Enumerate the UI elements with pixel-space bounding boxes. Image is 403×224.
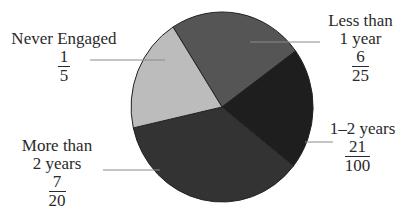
label-text: 1–2 years [322,120,403,138]
pie-slices [131,12,313,202]
fraction: 21 100 [345,138,371,175]
fraction: 1 5 [58,48,71,85]
fraction: 6 25 [352,48,369,85]
label-text-line-1: Less than [318,12,403,30]
label-text: Never Engaged [2,30,126,48]
fraction-denominator: 100 [345,157,371,175]
fraction-denominator: 20 [49,192,66,210]
label-1-2-years: 1–2 years 21 100 [322,120,403,175]
fraction-numerator: 1 [58,48,71,67]
label-never-engaged: Never Engaged 1 5 [2,30,126,85]
fraction-numerator: 6 [352,48,369,67]
fraction-numerator: 21 [345,138,371,157]
label-text-line-1: More than [12,137,102,155]
fraction-denominator: 5 [58,67,71,85]
fraction-denominator: 25 [352,67,369,85]
label-less-than-1-year: Less than 1 year 6 25 [318,12,403,85]
fraction: 7 20 [49,173,66,210]
label-more-than-2-years: More than 2 years 7 20 [12,137,102,210]
label-text-line-2: 2 years [12,155,102,173]
label-text-line-2: 1 year [318,30,403,48]
fraction-numerator: 7 [49,173,66,192]
